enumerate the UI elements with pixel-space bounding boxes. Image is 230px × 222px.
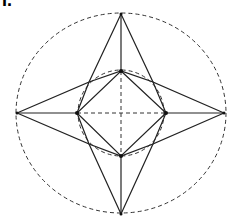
star-diagram bbox=[0, 0, 230, 222]
